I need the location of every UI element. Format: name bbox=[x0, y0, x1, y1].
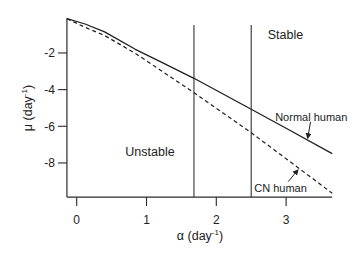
y-tick-label: -8 bbox=[44, 156, 55, 170]
x-axis-label-close: ) bbox=[219, 229, 223, 243]
y-axis-label-close: ) bbox=[21, 85, 35, 89]
pointer-arrow-icon bbox=[308, 122, 311, 138]
series-line-cn-human bbox=[67, 19, 332, 194]
x-tick-label: 0 bbox=[73, 213, 80, 227]
region-label-stable: Stable bbox=[268, 28, 303, 42]
series-group bbox=[67, 19, 332, 194]
y-axis-label-main: μ (day bbox=[21, 95, 35, 131]
y-axis-label: μ (day-1) bbox=[20, 85, 35, 131]
series-label-cn-human: CN human bbox=[254, 182, 307, 194]
y-tick-label: -6 bbox=[44, 120, 55, 134]
x-tick-label: 1 bbox=[143, 213, 150, 227]
stability-boundaries bbox=[194, 25, 251, 197]
y-tick-label: -4 bbox=[44, 83, 55, 97]
y-tick-label: -2 bbox=[44, 46, 55, 60]
x-tick-label: 3 bbox=[283, 213, 290, 227]
pointer-arrow-icon bbox=[288, 170, 298, 182]
x-axis-label-main: α (day bbox=[177, 229, 213, 243]
x-axis-label: α (day-1) bbox=[177, 228, 223, 243]
x-tick-label: 2 bbox=[213, 213, 220, 227]
annotations-group: StableUnstableNormal humanCN human bbox=[125, 28, 347, 194]
region-label-unstable: Unstable bbox=[125, 145, 174, 159]
axes-group: -2-4-6-80123 bbox=[44, 18, 332, 227]
stability-chart: -2-4-6-80123 StableUnstableNormal humanC… bbox=[0, 0, 358, 256]
series-label-normal-human: Normal human bbox=[275, 111, 347, 123]
